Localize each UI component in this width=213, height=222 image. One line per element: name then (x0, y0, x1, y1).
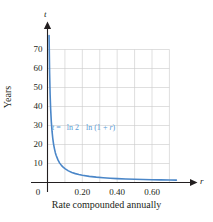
equation-equals: = (56, 124, 64, 132)
y-axis-variable-label: t (44, 10, 47, 19)
x-axis-variable-label: r (200, 177, 204, 186)
y-tick-label: 40 (23, 102, 43, 111)
x-tick-label: 0.40 (102, 188, 132, 197)
y-axis-title: Years (3, 73, 13, 121)
y-tick-label: 50 (23, 83, 43, 92)
equation-denominator: ln (1+r) (84, 123, 117, 132)
equation-denominator-prefix: ln (1 (86, 123, 101, 132)
chart-figure: t r Years Rate compounded annually 10203… (0, 0, 213, 222)
x-tick-label: 0.60 (137, 188, 167, 197)
y-tick-label: 20 (23, 140, 43, 149)
equation-denominator-suffix: ) (113, 123, 116, 132)
vertical-gridlines (65, 50, 170, 183)
x-tick-label: 0.20 (67, 188, 97, 197)
y-axis-arrowhead (44, 22, 51, 30)
y-tick-label: 60 (23, 64, 43, 73)
x-tick-label: 0 (23, 188, 53, 197)
x-axis-title: Rate compounded annually (0, 200, 213, 210)
horizontal-gridlines (48, 50, 170, 164)
equation-annotation: t = ln 2 ln (1+r) (52, 124, 117, 132)
x-axis-arrowhead (190, 179, 198, 186)
y-tick-label: 10 (23, 159, 43, 168)
equation-numerator: ln 2 (64, 123, 82, 132)
data-curve (49, 35, 176, 180)
equation-fraction: ln 2 ln (1+r) (64, 124, 117, 132)
y-tick-label: 30 (23, 121, 43, 130)
y-tick-label: 70 (23, 45, 43, 54)
